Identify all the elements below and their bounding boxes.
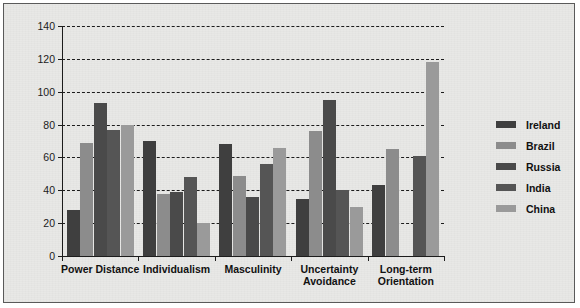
bar bbox=[184, 177, 197, 256]
legend-swatch-icon bbox=[496, 121, 516, 128]
y-tick-label-60: 60 bbox=[43, 151, 55, 163]
x-tick-mark bbox=[291, 256, 292, 261]
legend-item: China bbox=[496, 198, 560, 219]
y-tick-label-140: 140 bbox=[37, 20, 55, 32]
bar-group bbox=[368, 26, 444, 256]
y-tick-label-20: 20 bbox=[43, 217, 55, 229]
bar bbox=[143, 141, 156, 256]
y-tick-label-40: 40 bbox=[43, 184, 55, 196]
bar bbox=[121, 125, 134, 256]
legend-item: Russia bbox=[496, 156, 560, 177]
legend-swatch-icon bbox=[496, 163, 516, 170]
y-tick-label-120: 120 bbox=[37, 53, 55, 65]
x-axis-label: Individualism bbox=[143, 263, 210, 275]
bar bbox=[413, 156, 426, 256]
bar bbox=[94, 103, 107, 256]
bar bbox=[107, 130, 120, 257]
legend: IrelandBrazilRussiaIndiaChina bbox=[496, 114, 560, 219]
bar bbox=[323, 100, 336, 256]
bar bbox=[386, 149, 399, 256]
bar bbox=[219, 144, 232, 256]
x-axis-label: Power Distance bbox=[61, 263, 139, 275]
plot-area: 020406080100120140 bbox=[62, 26, 444, 256]
bars-layer bbox=[62, 26, 444, 256]
bar bbox=[372, 185, 385, 256]
legend-label: India bbox=[526, 182, 551, 194]
x-tick-mark bbox=[62, 256, 63, 261]
x-axis-label: Uncertainty Avoidance bbox=[301, 263, 359, 287]
bar bbox=[309, 131, 322, 256]
bar bbox=[246, 197, 259, 256]
bar bbox=[273, 148, 286, 256]
legend-item: India bbox=[496, 177, 560, 198]
legend-swatch-icon bbox=[496, 142, 516, 149]
legend-label: Brazil bbox=[526, 140, 555, 152]
legend-swatch-icon bbox=[496, 184, 516, 191]
bar bbox=[233, 176, 246, 257]
x-tick-mark bbox=[444, 256, 445, 261]
chart-frame: 020406080100120140 Power DistanceIndivid… bbox=[3, 3, 575, 303]
bar-group bbox=[138, 26, 214, 256]
legend-item: Ireland bbox=[496, 114, 560, 135]
x-axis-label: Masculinity bbox=[224, 263, 281, 275]
legend-label: Ireland bbox=[526, 119, 560, 131]
y-tick-label-0: 0 bbox=[49, 250, 55, 262]
legend-swatch-icon bbox=[496, 205, 516, 212]
bar bbox=[426, 62, 439, 256]
bar bbox=[336, 190, 349, 256]
bar-group bbox=[62, 26, 138, 256]
legend-label: Russia bbox=[526, 161, 560, 173]
bar bbox=[170, 192, 183, 256]
y-tick-label-80: 80 bbox=[43, 119, 55, 131]
bar-group bbox=[291, 26, 367, 256]
y-tick-label-100: 100 bbox=[37, 86, 55, 98]
legend-label: China bbox=[526, 203, 555, 215]
bar bbox=[296, 199, 309, 257]
x-tick-mark bbox=[368, 256, 369, 261]
bar-group bbox=[215, 26, 291, 256]
bar bbox=[157, 194, 170, 256]
bar bbox=[350, 207, 363, 256]
x-axis-label: Long-term Orientation bbox=[378, 263, 434, 287]
bar bbox=[260, 164, 273, 256]
x-tick-mark bbox=[215, 256, 216, 261]
legend-item: Brazil bbox=[496, 135, 560, 156]
x-tick-mark bbox=[138, 256, 139, 261]
bar bbox=[197, 223, 210, 256]
x-axis-categories: Power DistanceIndividualismMasculinityUn… bbox=[62, 256, 444, 306]
bar bbox=[67, 210, 80, 256]
bar bbox=[80, 143, 93, 256]
